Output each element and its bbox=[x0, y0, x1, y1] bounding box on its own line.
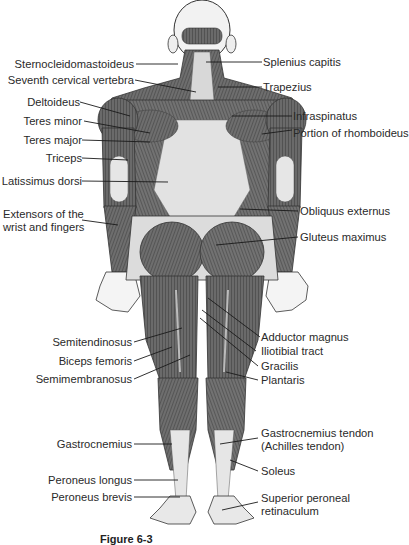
label-extensors-line1: Extensors of the bbox=[3, 208, 84, 221]
label-teres-major: Teres major bbox=[24, 134, 82, 147]
label-latissimus-dorsi: Latissimus dorsi bbox=[2, 175, 82, 188]
label-soleus: Soleus bbox=[261, 465, 295, 478]
label-peroneus-brevis: Peroneus brevis bbox=[51, 491, 132, 504]
label-teres-minor: Teres minor bbox=[24, 115, 82, 128]
label-superior-peroneal-line2: retinaculum bbox=[261, 505, 319, 518]
label-biceps-femoris: Biceps femoris bbox=[59, 355, 132, 368]
label-gastrocnemius-tendon-line1: Gastrocnemius tendon bbox=[261, 427, 374, 440]
label-infraspinatus: Infraspinatus bbox=[293, 110, 357, 123]
label-portion-of-rhomboideus: Portion of rhomboideus bbox=[293, 127, 409, 140]
label-extensors-line2: wrist and fingers bbox=[3, 221, 84, 234]
label-iliotibial-tract: Iliotibial tract bbox=[261, 345, 323, 358]
label-seventh-cervical-vertebra: Seventh cervical vertebra bbox=[8, 74, 134, 87]
figure-caption: Figure 6-3 bbox=[100, 533, 153, 545]
label-peroneus-longus: Peroneus longus bbox=[48, 474, 132, 487]
label-gastrocnemius: Gastrocnemius bbox=[57, 438, 132, 451]
label-gracilis: Gracilis bbox=[261, 360, 298, 373]
label-splenius-capitis: Splenius capitis bbox=[263, 56, 341, 69]
label-deltoideus: Deltoideus bbox=[27, 96, 80, 109]
caption-prefix: Figure 6-3 bbox=[100, 533, 153, 545]
label-semitendinosus: Semitendinosus bbox=[52, 336, 132, 349]
label-semimembranosus: Semimembranosus bbox=[36, 373, 132, 386]
label-triceps: Triceps bbox=[46, 152, 82, 165]
label-gluteus-maximus: Gluteus maximus bbox=[300, 231, 386, 244]
label-trapezius: Trapezius bbox=[263, 81, 312, 94]
label-gastrocnemius-tendon-line2: (Achilles tendon) bbox=[261, 440, 344, 453]
label-plantaris: Plantaris bbox=[261, 374, 305, 387]
label-adductor-magnus: Adductor magnus bbox=[261, 331, 349, 344]
label-obliquus-externus: Obliquus externus bbox=[300, 205, 390, 218]
label-superior-peroneal-line1: Superior peroneal bbox=[261, 492, 350, 505]
label-sternocleidomastoideus: Sternocleidomastoideus bbox=[15, 58, 134, 71]
